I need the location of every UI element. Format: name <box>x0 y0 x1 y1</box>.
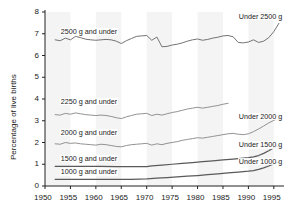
y-tick-label: 5 <box>35 73 39 81</box>
x-tick-label: 1985 <box>212 194 230 202</box>
label-1500-left: 1500 g and under <box>60 155 117 162</box>
label-1000-right: Under 1000 g <box>238 158 283 165</box>
y-tick-label: 2 <box>35 139 39 147</box>
y-tick-label: 8 <box>35 8 39 16</box>
x-tick-label: 1965 <box>110 194 128 202</box>
line-chart: 012345678 195019551960196519701975198019… <box>0 0 288 218</box>
y-axis-title: Percentage of live births <box>10 74 18 160</box>
x-tick-label: 1980 <box>187 194 205 202</box>
x-tick-label: 1950 <box>34 194 52 202</box>
label-1000-left: 1000 g and under <box>60 168 117 175</box>
label-2000-left: 2000 g and under <box>60 129 117 136</box>
chart-plot-area <box>0 0 288 218</box>
x-tick-label: 1960 <box>85 194 103 202</box>
y-tick-label: 6 <box>35 52 39 60</box>
x-tick-label: 1990 <box>237 194 255 202</box>
x-tick-label: 1975 <box>161 194 179 202</box>
y-tick-label: 3 <box>35 117 39 125</box>
background-bands <box>0 0 288 218</box>
x-tick-label: 1955 <box>59 194 77 202</box>
y-tick-label: 1 <box>35 160 39 168</box>
x-tick-label: 1995 <box>263 194 281 202</box>
label-2000-right: Under 2000 g <box>238 113 283 120</box>
label-2500-right: Under 2500 g <box>238 13 283 20</box>
y-tick-label: 4 <box>35 95 39 103</box>
label-1500-right: Under 1500 g <box>238 141 283 148</box>
label-2250-left: 2250 g and under <box>60 98 117 105</box>
y-tick-label: 7 <box>35 30 39 38</box>
label-2500-left: 2500 g and under <box>60 28 117 35</box>
x-tick-label: 1970 <box>136 194 154 202</box>
y-tick-label: 0 <box>35 182 39 190</box>
